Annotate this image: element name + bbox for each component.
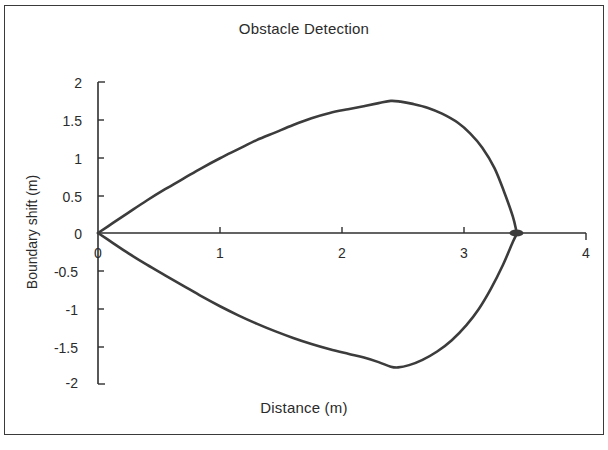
upper-boundary-curve [98, 101, 516, 233]
xtick-label-2: 2 [327, 245, 357, 261]
ytick-label-neg2: -2 [38, 375, 78, 391]
x-axis-title: Distance (m) [0, 399, 608, 416]
ytick-label-2: 2 [42, 75, 82, 91]
plot-area [0, 0, 608, 450]
ytick-label-1: 1 [42, 151, 82, 167]
ytick-label-0-5: 0.5 [42, 189, 82, 205]
xtick-label-0: 0 [83, 245, 113, 261]
ytick-label-1-5: 1.5 [42, 113, 82, 129]
xtick-label-1: 1 [205, 245, 235, 261]
convergence-marker-icon [509, 229, 523, 236]
ytick-label-neg1: -1 [38, 302, 78, 318]
figure-container: Obstacle Detection 2 1.5 1 [0, 0, 608, 450]
xtick-label-4: 4 [571, 245, 601, 261]
xtick-label-3: 3 [449, 245, 479, 261]
y-axis-title: Boundary shift (m) [24, 142, 40, 322]
ytick-label-neg0-5: -0.5 [38, 264, 78, 280]
ytick-label-neg1-5: -1.5 [38, 340, 78, 356]
ytick-label-0: 0 [42, 226, 82, 242]
